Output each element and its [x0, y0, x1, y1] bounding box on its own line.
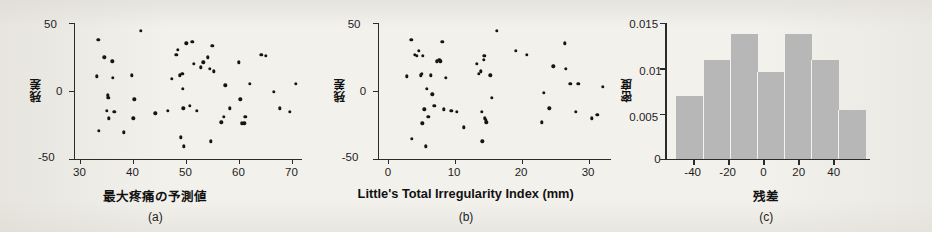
data-point	[212, 70, 215, 73]
panel-b-xtick-0: 0	[385, 167, 391, 179]
data-point	[170, 77, 173, 80]
data-point	[577, 82, 580, 85]
panel-c-ytick-0.01: 0.01	[639, 66, 661, 78]
data-point	[132, 117, 135, 120]
data-point	[410, 137, 413, 140]
data-point	[111, 76, 114, 79]
panel-c-xtick-mark-0	[763, 160, 764, 165]
data-point	[153, 112, 156, 115]
data-point	[410, 38, 413, 41]
data-point	[547, 106, 550, 109]
data-point	[568, 82, 571, 85]
panel-a-xtick-70: 70	[285, 167, 298, 179]
panel-c-xtick--40: -40	[684, 167, 701, 179]
panel-c-ytick-mark-0.015	[660, 23, 665, 24]
data-point	[259, 53, 262, 56]
data-point	[415, 54, 418, 57]
panel-c-ytick-mark-0	[660, 159, 665, 160]
data-point	[564, 67, 567, 70]
panel-b-xtick-mark-10	[455, 159, 456, 164]
data-point	[444, 76, 447, 79]
data-point	[191, 40, 194, 43]
data-point	[133, 98, 136, 101]
data-point	[482, 58, 485, 61]
data-point	[483, 54, 486, 57]
data-point	[176, 48, 179, 51]
panel-a-xtick-mark-60	[239, 159, 240, 164]
data-point	[202, 61, 205, 64]
panel-c-xtick--20: -20	[719, 167, 736, 179]
panel-c-x-axis	[665, 159, 870, 160]
data-point	[220, 120, 223, 123]
data-point	[195, 109, 198, 112]
data-point	[206, 56, 209, 59]
data-point	[97, 129, 100, 132]
data-point	[237, 61, 240, 64]
data-point	[424, 145, 427, 148]
data-point	[188, 104, 191, 107]
data-point	[130, 73, 133, 76]
panel-c-xtick-20: 20	[792, 167, 805, 179]
data-point	[429, 73, 432, 76]
panel-a-ytick--50: -50	[38, 152, 55, 164]
histogram-bar	[676, 96, 703, 159]
data-point	[590, 117, 593, 120]
panel-b-xlabel: Little's Total Irregularity Index (mm)	[311, 186, 621, 201]
data-point	[442, 108, 445, 111]
data-point	[525, 53, 528, 56]
data-point	[475, 62, 478, 65]
histogram-bar	[730, 34, 758, 159]
data-point	[450, 109, 453, 112]
panel-a-xtick-mark-50	[186, 159, 187, 164]
data-point	[552, 65, 555, 68]
panel-a-ytick-0: 0	[56, 86, 62, 98]
data-point	[479, 70, 482, 73]
data-point	[182, 145, 185, 148]
data-point	[601, 85, 604, 88]
data-point	[288, 110, 291, 113]
panel-a-xtick-40: 40	[126, 167, 139, 179]
data-point	[439, 59, 442, 62]
panel-a-caption: (a)	[0, 210, 311, 224]
panel-c-ytick-mark-0.01	[660, 68, 665, 69]
panel-a-xtick-mark-30	[80, 159, 81, 164]
data-point	[182, 106, 185, 109]
panel-b-plot-area	[378, 23, 611, 159]
data-point	[455, 110, 458, 113]
data-point	[462, 126, 465, 129]
panel-c-xtick-40: 40	[827, 167, 840, 179]
data-point	[540, 120, 543, 123]
panel-a-xtick-30: 30	[73, 167, 86, 179]
data-point	[209, 140, 212, 143]
panel-a-xtick-mark-40	[133, 159, 134, 164]
data-point	[420, 72, 423, 75]
panel-b-xtick-10: 10	[448, 167, 461, 179]
panel-a-xtick-60: 60	[232, 167, 245, 179]
data-point	[181, 87, 184, 90]
data-point	[433, 104, 436, 107]
data-point	[139, 29, 142, 32]
data-point	[514, 49, 517, 52]
panel-b-xtick-mark-20	[522, 159, 523, 164]
panel-b-ytick--50: -50	[342, 152, 359, 164]
panel-c-xtick-mark-40	[833, 160, 834, 165]
data-point	[95, 75, 98, 78]
data-point	[244, 115, 247, 118]
data-point	[175, 53, 178, 56]
data-point	[480, 110, 483, 113]
data-point	[185, 42, 188, 45]
panel-b-ylabel: 残差	[332, 78, 348, 102]
data-point	[239, 98, 242, 101]
data-point	[441, 40, 444, 43]
data-point	[278, 106, 281, 109]
data-point	[208, 67, 211, 70]
data-point	[431, 92, 434, 95]
figure-row: 残差 50 0 -50 30 40 50 60 70 最大疼痛の予測値 (a) …	[0, 0, 932, 232]
data-point	[427, 115, 430, 118]
panel-a: 残差 50 0 -50 30 40 50 60 70 最大疼痛の予測値 (a)	[0, 0, 311, 232]
data-point	[243, 122, 246, 125]
panel-c-ytick-0.015: 0.015	[629, 19, 658, 31]
histogram-bar	[757, 72, 785, 159]
panel-a-plot-area	[74, 23, 302, 159]
histogram-bar	[703, 60, 731, 159]
